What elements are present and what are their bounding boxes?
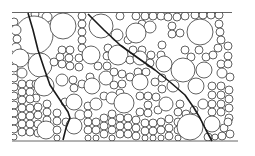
particle [168, 22, 176, 30]
particle [26, 128, 34, 136]
particle [173, 13, 181, 21]
particle [217, 91, 225, 99]
particle [53, 117, 61, 125]
particle [217, 100, 225, 108]
particle [10, 64, 18, 72]
particle [75, 63, 83, 71]
particle [216, 28, 224, 36]
particle [124, 122, 132, 130]
particle [18, 104, 26, 112]
particle [132, 12, 140, 20]
particle [208, 91, 216, 99]
particle [78, 36, 86, 44]
particle [124, 130, 132, 138]
particle [85, 135, 91, 141]
particle [164, 13, 172, 21]
particle [100, 122, 108, 130]
particle [150, 135, 156, 141]
particle [92, 126, 100, 134]
particle [53, 109, 61, 117]
particle [132, 132, 140, 140]
particle [116, 12, 124, 20]
particle [136, 108, 144, 116]
particle [54, 135, 60, 141]
particle [100, 130, 108, 138]
particle [158, 85, 166, 93]
particle [108, 118, 116, 126]
particle [18, 96, 26, 104]
particle [100, 114, 108, 122]
particle [214, 44, 222, 52]
particle [37, 121, 55, 139]
particle [144, 109, 152, 117]
particle [26, 104, 34, 112]
diagram-canvas [0, 0, 255, 156]
particle [82, 46, 100, 64]
particle [118, 70, 126, 78]
particle [225, 86, 233, 94]
particle [136, 92, 144, 100]
particle [141, 12, 149, 20]
particle [10, 117, 18, 125]
particle [176, 29, 184, 37]
particle [217, 82, 225, 90]
particle [196, 62, 212, 78]
particle [144, 101, 152, 109]
particle [18, 128, 26, 136]
particle [84, 78, 100, 94]
particle [94, 62, 102, 70]
particle [11, 25, 21, 35]
particle-packing-diagram [0, 0, 255, 156]
particle [224, 42, 232, 50]
particle [78, 12, 86, 20]
particle [116, 122, 124, 130]
particle [56, 74, 68, 86]
particle [50, 58, 58, 66]
particle [26, 95, 34, 103]
particle [10, 83, 18, 91]
particle [69, 76, 77, 84]
particle [43, 108, 51, 116]
particle [18, 120, 26, 128]
particle [209, 51, 217, 59]
particle [165, 132, 173, 140]
particle [10, 92, 18, 100]
particle [149, 119, 157, 127]
particle [18, 80, 26, 88]
particle [168, 30, 176, 38]
particle [171, 58, 195, 82]
particle [103, 62, 111, 70]
particle [10, 125, 18, 133]
particle [149, 127, 157, 135]
particle [217, 108, 225, 116]
particle [181, 46, 189, 54]
particle [141, 119, 149, 127]
particle [58, 60, 66, 68]
particle [108, 126, 116, 134]
particle [226, 130, 234, 138]
particle [110, 68, 118, 76]
particle [118, 80, 126, 88]
particle [225, 104, 233, 112]
particle [109, 135, 115, 141]
particle [224, 52, 232, 60]
particle [181, 12, 189, 20]
particle [158, 135, 164, 141]
particle [93, 135, 99, 141]
particle [26, 112, 34, 120]
particle [157, 126, 165, 134]
particle [10, 109, 18, 117]
particle [187, 19, 213, 45]
particle [13, 35, 21, 43]
particle [218, 132, 226, 140]
particle [165, 115, 173, 123]
particle [152, 93, 160, 101]
particle [18, 88, 26, 96]
particle [217, 68, 227, 78]
particle [165, 124, 173, 132]
particle [78, 28, 86, 36]
particle [224, 118, 232, 126]
particle [70, 84, 78, 92]
particle [110, 81, 118, 89]
particle [11, 134, 17, 140]
